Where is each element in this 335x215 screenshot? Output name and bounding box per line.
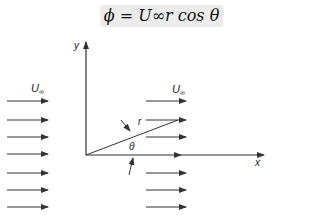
x-axis-label: x	[254, 157, 261, 168]
angle-label: θ	[129, 141, 135, 152]
left-freestream-arrows	[7, 101, 48, 207]
y-axis-label: y	[73, 40, 80, 51]
u-inf-right-label: U∞	[172, 83, 185, 96]
right-freestream-arrows	[146, 101, 186, 207]
u-inf-left-label: U∞	[31, 82, 44, 95]
angle-pointer-arrow-icon	[129, 158, 133, 175]
radius-label: r	[138, 116, 142, 127]
axis-flow-arrowhead-icon	[174, 152, 182, 158]
radius-pointer-arrow-icon	[121, 120, 130, 131]
uniform-flow-diagram: y x U∞ U∞ r θ	[0, 0, 335, 215]
